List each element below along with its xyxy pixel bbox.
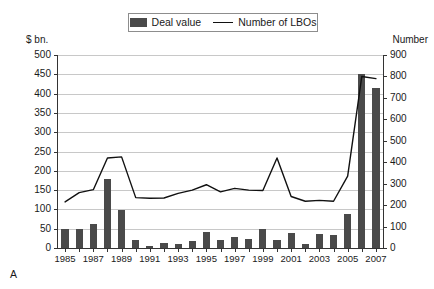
y-tick-right (383, 98, 387, 99)
x-tick-label: 2005 (337, 254, 358, 264)
y-tick-label-right: 200 (390, 200, 407, 210)
x-tick-label: 1989 (111, 254, 132, 264)
x-tick-label: 1997 (224, 254, 245, 264)
y-tick-label-right: 900 (390, 50, 407, 60)
bar-swatch-icon (130, 18, 147, 27)
x-tick-label: 1991 (139, 254, 160, 264)
legend-label-number-of-lbos: Number of LBOs (238, 17, 316, 28)
x-tick-label: 1985 (54, 254, 75, 264)
y-tick-label-right: 800 (390, 71, 407, 81)
y-tick-label-right: 700 (390, 93, 407, 103)
y-tick-right (383, 248, 387, 249)
y-tick-label-right: 400 (390, 157, 407, 167)
line-swatch-icon (213, 22, 233, 23)
y-tick-label-left: 450 (34, 69, 51, 79)
y-tick-label-left: 150 (34, 185, 51, 195)
y-tick-right (383, 141, 387, 142)
x-tick (362, 248, 363, 252)
y-tick-right (383, 162, 387, 163)
x-tick (136, 248, 137, 252)
x-tick (79, 248, 80, 252)
legend-item-deal-value: Deal value (130, 17, 202, 28)
y-tick-label-right: 100 (390, 222, 407, 232)
y-tick-label-right: 0 (390, 243, 396, 253)
x-tick (334, 248, 335, 252)
y-tick-right (383, 205, 387, 206)
y-tick-label-right: 300 (390, 179, 407, 189)
line-series-number-of-lbos (58, 55, 383, 248)
lbo-polyline (65, 76, 376, 201)
chart-legend: Deal value Number of LBOs (128, 13, 318, 32)
y-tick-right (383, 55, 387, 56)
chart-figure: Deal value Number of LBOs $ bn. Number 0… (0, 0, 434, 289)
y-tick-label-left: 0 (45, 243, 51, 253)
x-tick (93, 248, 94, 252)
x-tick-label: 1993 (168, 254, 189, 264)
legend-item-number-of-lbos: Number of LBOs (213, 17, 316, 28)
y-tick-right (383, 119, 387, 120)
x-tick-label: 1987 (83, 254, 104, 264)
x-tick (263, 248, 264, 252)
x-tick (277, 248, 278, 252)
plot-area: 050100150200250300350400450500 010020030… (57, 55, 384, 249)
y-axis-right-caption: Number (392, 34, 428, 45)
x-tick-label: 1999 (252, 254, 273, 264)
x-tick (178, 248, 179, 252)
x-tick-label: 2003 (309, 254, 330, 264)
x-tick (249, 248, 250, 252)
x-tick-label: 2001 (281, 254, 302, 264)
y-tick-right (383, 184, 387, 185)
x-tick (192, 248, 193, 252)
y-axis-left-caption: $ bn. (26, 34, 48, 45)
x-tick (122, 248, 123, 252)
x-tick-label: 1995 (196, 254, 217, 264)
x-tick (107, 248, 108, 252)
y-tick-label-left: 100 (34, 204, 51, 214)
x-tick (164, 248, 165, 252)
x-tick (150, 248, 151, 252)
y-tick-label-left: 250 (34, 147, 51, 157)
y-tick-label-left: 200 (34, 166, 51, 176)
x-tick (206, 248, 207, 252)
x-tick (221, 248, 222, 252)
x-tick (376, 248, 377, 252)
figure-letter: A (10, 268, 17, 280)
y-tick-label-right: 500 (390, 136, 407, 146)
y-tick-label-left: 300 (34, 127, 51, 137)
x-tick (348, 248, 349, 252)
x-tick (305, 248, 306, 252)
y-tick-right (383, 227, 387, 228)
y-tick-label-left: 350 (34, 108, 51, 118)
y-tick-label-left: 400 (34, 89, 51, 99)
x-tick-label: 2007 (365, 254, 386, 264)
faint-top-text (12, 0, 422, 7)
x-tick (291, 248, 292, 252)
x-tick (319, 248, 320, 252)
legend-label-deal-value: Deal value (152, 17, 202, 28)
x-tick (235, 248, 236, 252)
x-tick (65, 248, 66, 252)
y-tick-right (383, 76, 387, 77)
y-tick-label-left: 50 (40, 224, 51, 234)
y-tick-left (54, 248, 58, 249)
y-tick-label-left: 500 (34, 50, 51, 60)
y-tick-label-right: 600 (390, 114, 407, 124)
